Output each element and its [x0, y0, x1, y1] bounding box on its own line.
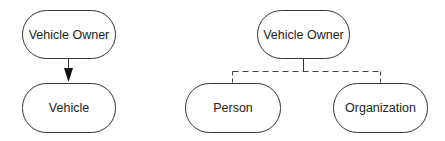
node-label: Organization [345, 101, 416, 115]
right-diagram: Vehicle Owner Person Organization [186, 11, 428, 133]
node-vehicle-owner-right[interactable]: Vehicle Owner [258, 11, 350, 59]
node-person[interactable]: Person [186, 84, 281, 133]
node-label: Vehicle Owner [29, 28, 110, 42]
node-label: Vehicle Owner [263, 28, 344, 42]
node-label: Person [213, 101, 253, 115]
arrowhead-icon [64, 68, 73, 82]
left-diagram: Vehicle Owner Vehicle [23, 11, 116, 133]
node-label: Vehicle [49, 101, 89, 115]
node-vehicle[interactable]: Vehicle [23, 84, 116, 133]
node-vehicle-owner-left[interactable]: Vehicle Owner [23, 11, 116, 59]
node-organization[interactable]: Organization [334, 84, 428, 133]
diagram-canvas: Vehicle Owner Vehicle Vehicle Owner Pers… [0, 0, 445, 141]
